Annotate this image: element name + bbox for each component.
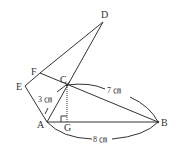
label-a: A — [37, 119, 45, 130]
measure-cb: 7 ㎝ — [107, 86, 121, 95]
arc-ab-right — [112, 122, 158, 139]
arc-cb-right — [130, 97, 158, 122]
measure-ab: 8 ㎝ — [93, 135, 107, 144]
point-b-dot — [157, 121, 159, 123]
geometry-diagram: D F E C A G B 3 ㎝ 7 ㎝ 8 ㎝ — [0, 0, 176, 155]
label-g: G — [64, 122, 71, 133]
segment-fd — [40, 22, 103, 73]
label-d: D — [101, 9, 108, 20]
segment-ea — [25, 86, 47, 122]
arc-tick-a — [45, 108, 48, 114]
label-c: C — [60, 74, 67, 85]
label-f: F — [31, 66, 37, 77]
segment-ad — [47, 22, 103, 122]
label-e: E — [16, 81, 22, 92]
label-b: B — [161, 117, 168, 128]
measure-ac: 3 ㎝ — [38, 95, 52, 104]
segment-fb — [40, 73, 158, 122]
